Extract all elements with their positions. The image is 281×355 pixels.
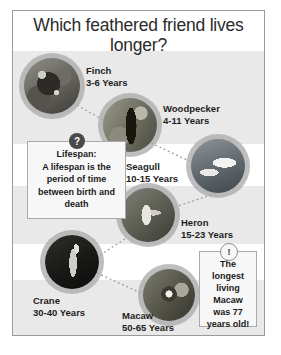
definition-text: A lifespan is the period of time between… [38,162,115,210]
bird-photo-seagull [191,139,245,193]
bird-name-heron: Heron [181,217,233,229]
fact-box: The longest living Macaw was 77 years ol… [199,251,257,327]
question-mark-icon: ? [69,133,85,149]
bird-caption-crane: Crane 30-40 Years [33,295,85,318]
fact-text: The longest living Macaw was 77 years ol… [207,259,250,329]
bird-name-seagull: Seagull [126,161,178,173]
bird-caption-heron: Heron 15-23 Years [181,217,233,240]
bird-lifespan-heron: 15-23 Years [181,229,233,241]
bird-name-woodpecker: Woodpecker [163,103,220,115]
bird-lifespan-seagull: 10-15 Years [126,173,178,185]
bird-photo-heron [121,188,175,242]
definition-box: Lifespan: A lifespan is the period of ti… [27,141,126,219]
bird-caption-seagull: Seagull 10-15 Years [126,161,178,184]
poster-card: Which feathered friend lives longer? Fin… [12,10,265,336]
bird-caption-woodpecker: Woodpecker 4-11 Years [163,103,220,126]
bird-lifespan-macaw: 50-65 Years [122,322,174,334]
bird-lifespan-finch: 3-6 Years [86,77,128,89]
exclamation-mark-icon: ! [220,243,238,261]
bird-name-macaw: Macaw [122,310,174,322]
bird-name-finch: Finch [86,65,128,77]
page-title: Which feathered friend lives longer? [13,15,264,55]
bird-caption-finch: Finch 3-6 Years [86,65,128,88]
bird-lifespan-woodpecker: 4-11 Years [163,115,220,127]
bird-name-crane: Crane [33,295,85,307]
definition-title: Lifespan: [56,149,96,159]
bird-photo-crane [45,235,99,289]
bird-lifespan-crane: 30-40 Years [33,307,85,319]
bird-photo-finch [24,58,80,114]
bird-caption-macaw: Macaw 50-65 Years [122,310,174,333]
